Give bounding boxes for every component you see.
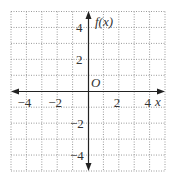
x-tick-label: −2 (48, 95, 62, 110)
coordinate-plane: −4−22442−2−4 f(x) x O (0, 0, 172, 180)
y-tick-label: −2 (70, 116, 84, 131)
x-tick-label: −4 (17, 95, 31, 110)
origin-label: O (91, 75, 101, 90)
x-tick-label: 4 (145, 95, 152, 110)
y-tick-label: 4 (76, 20, 83, 35)
y-axis-label: f(x) (95, 14, 113, 29)
x-axis-label: x (154, 94, 161, 109)
y-tick-label: −4 (70, 148, 84, 163)
y-tick-label: 2 (76, 52, 83, 67)
x-tick-label: 2 (114, 95, 121, 110)
